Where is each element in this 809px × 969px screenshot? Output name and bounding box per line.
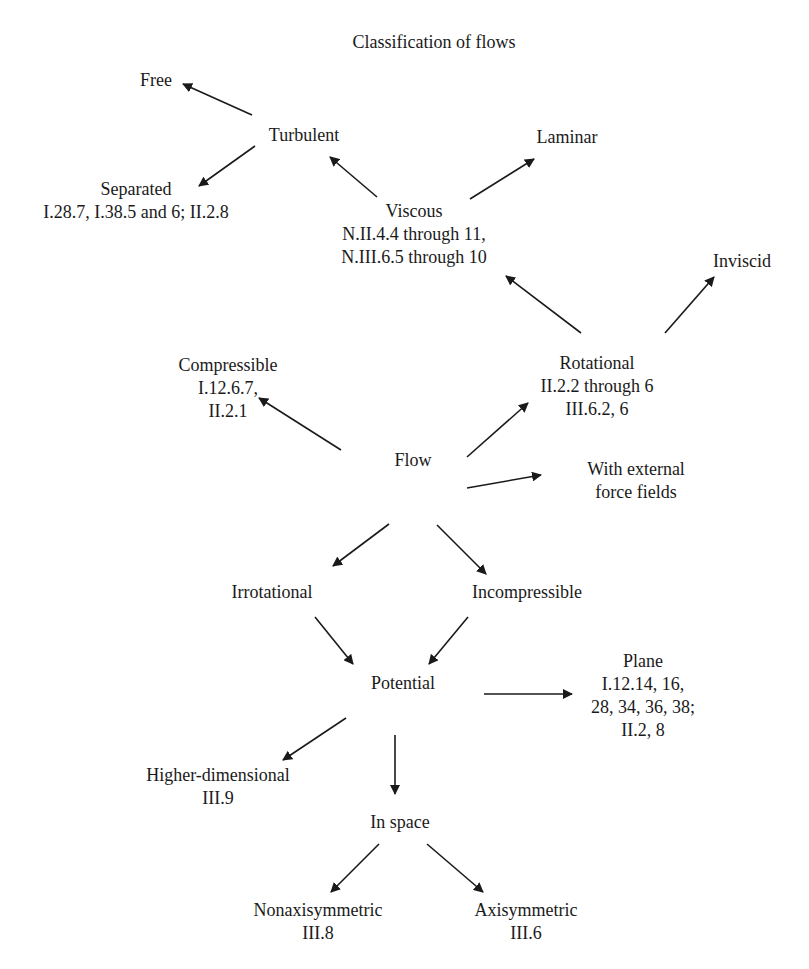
node-refs: III.6 [475,922,578,945]
node-label: Rotational [541,352,654,375]
node-label: Separated [43,178,228,201]
edge-potential-higher-dimensional [283,718,346,760]
node-label: Nonaxisymmetric [254,899,383,922]
node-potential: Potential [371,672,435,695]
node-label: Irrotational [232,581,313,604]
node-label: Potential [371,672,435,695]
node-label: Incompressible [472,581,582,604]
node-label: Viscous [341,200,486,223]
node-plane: Plane I.12.14, 16, 28, 34, 36, 38; II.2,… [591,650,695,742]
node-refs: III.9 [146,787,290,810]
node-label: Laminar [537,126,598,149]
edge-viscous-laminar [470,159,534,199]
edge-irrotational-potential [315,617,353,664]
node-label: Flow [394,449,431,472]
node-label: With external [587,458,685,481]
node-viscous: Viscous N.II.4.4 through 11, N.III.6.5 t… [341,200,486,269]
edge-rotational-viscous [506,276,581,333]
node-irrotational: Irrotational [232,581,313,604]
node-laminar: Laminar [537,126,598,149]
node-refs: I.12.14, 16, [591,673,695,696]
node-refs: 28, 34, 36, 38; [591,696,695,719]
node-label: Axisymmetric [475,899,578,922]
node-in-space: In space [370,811,429,834]
node-refs: force fields [587,481,685,504]
node-label: Higher-dimensional [146,764,290,787]
node-label: In space [370,811,429,834]
node-compressible: Compressible I.12.6.7, II.2.1 [179,354,278,423]
node-refs: II.2.2 through 6 [541,375,654,398]
edge-in-space-nonaxisymmetric [331,844,379,892]
node-label: Inviscid [713,250,771,273]
node-refs: I.28.7, I.38.5 and 6; II.2.8 [43,201,228,224]
node-nonaxisymmetric: Nonaxisymmetric III.8 [254,899,383,945]
edge-flow-rotational [467,403,528,457]
edge-rotational-inviscid [665,277,714,333]
node-refs: III.8 [254,922,383,945]
edge-flow-incompressible [437,525,486,574]
node-label: Plane [591,650,695,673]
node-label: Free [140,69,172,92]
node-refs: N.II.4.4 through 11, [341,223,486,246]
diagram-title: Classification of flows [353,31,516,54]
node-label: Compressible [179,354,278,377]
node-refs: I.12.6.7, [179,377,278,400]
node-refs: N.III.6.5 through 10 [341,246,486,269]
node-inviscid: Inviscid [713,250,771,273]
edge-in-space-axisymmetric [427,844,483,892]
node-turbulent: Turbulent [269,124,339,147]
node-refs: III.6.2, 6 [541,398,654,421]
edge-incompressible-potential [429,617,468,664]
diagram-title-text: Classification of flows [353,31,516,54]
node-free: Free [140,69,172,92]
edge-viscous-turbulent [330,157,377,197]
node-separated: Separated I.28.7, I.38.5 and 6; II.2.8 [43,178,228,224]
node-refs: II.2.1 [179,400,278,423]
node-refs: II.2, 8 [591,719,695,742]
edge-flow-irrotational [333,524,389,566]
flow-classification-diagram: Classification of flows Free Turbulent L… [0,0,809,969]
node-external-force: With external force fields [587,458,685,504]
edge-flow-external-force [467,475,541,488]
edge-turbulent-free [183,84,252,115]
node-label: Turbulent [269,124,339,147]
node-flow: Flow [394,449,431,472]
node-axisymmetric: Axisymmetric III.6 [475,899,578,945]
node-rotational: Rotational II.2.2 through 6 III.6.2, 6 [541,352,654,421]
node-higher-dimensional: Higher-dimensional III.9 [146,764,290,810]
node-incompressible: Incompressible [472,581,582,604]
